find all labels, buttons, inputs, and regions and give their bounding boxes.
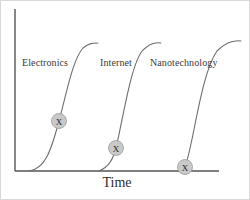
curve-label-nanotechnology: Nanotechnology bbox=[150, 57, 218, 68]
marker-label-electronics: X bbox=[56, 117, 63, 127]
marker-label-internet: X bbox=[113, 144, 120, 154]
x-axis-title: Time bbox=[1, 175, 233, 191]
s-curve-technology-chart: X X X Electronics Internet Nanotechnolog… bbox=[0, 0, 250, 200]
marker-electronics: X bbox=[52, 114, 67, 129]
curve-label-internet: Internet bbox=[100, 57, 132, 68]
marker-nanotechnology: X bbox=[178, 160, 193, 175]
marker-label-nanotechnology: X bbox=[182, 163, 189, 173]
chart-canvas: X X X bbox=[1, 1, 250, 200]
marker-internet: X bbox=[109, 141, 124, 156]
curve-label-electronics: Electronics bbox=[22, 57, 68, 68]
